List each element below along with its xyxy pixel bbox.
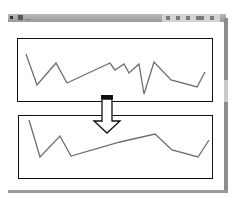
smoothed-series-line: [29, 120, 209, 157]
original-series-line: [26, 54, 205, 94]
vertical-scrollbar[interactable]: [224, 18, 228, 190]
diagram-svg: [0, 0, 241, 198]
vertical-scroll-thumb[interactable]: [224, 80, 228, 102]
horizontal-scrollbar[interactable]: [8, 190, 228, 193]
down-arrow-icon: [94, 95, 120, 133]
